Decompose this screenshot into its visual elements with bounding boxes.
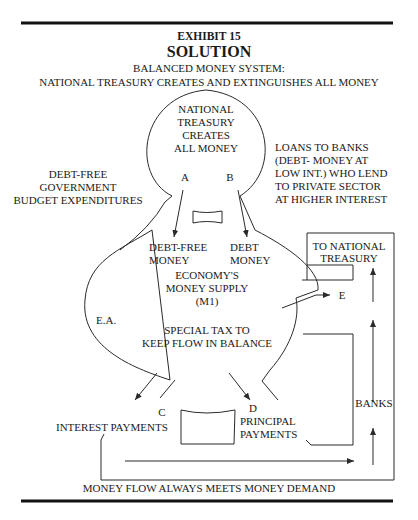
special-tax-1: SPECIAL TAX TO xyxy=(164,324,250,336)
left-note-3: BUDGET EXPENDITURES xyxy=(13,194,142,206)
treasury-line-4: ALL MONEY xyxy=(174,142,238,154)
right-note-1: LOANS TO BANKS xyxy=(275,141,369,153)
interest-payments-label: INTEREST PAYMENTS xyxy=(56,421,168,433)
banks-label: BANKS xyxy=(355,397,392,409)
treasury-line-2: TREASURY xyxy=(177,116,235,128)
special-tax-2: KEEP FLOW IN BALANCE xyxy=(142,337,272,349)
point-c: C xyxy=(158,406,165,418)
right-note-4: TO PRIVATE SECTOR xyxy=(275,180,381,192)
point-d: D xyxy=(249,402,257,414)
to-treasury-2: TREASURY xyxy=(320,252,378,264)
money-flow-diagram: EXHIBIT 15 SOLUTION BALANCED MONEY SYSTE… xyxy=(0,0,418,520)
treasury-line-3: CREATES xyxy=(182,129,230,141)
arrow-a xyxy=(174,190,183,237)
point-a: A xyxy=(181,171,189,183)
principal-channel xyxy=(303,334,353,445)
arrow-c xyxy=(135,373,157,400)
valve-shape xyxy=(193,211,222,223)
right-note-5: AT HIGHER INTEREST xyxy=(275,193,388,205)
arrow-d xyxy=(229,373,250,400)
money-supply-3: (M1) xyxy=(196,295,219,308)
arrow-b xyxy=(238,190,247,237)
to-treasury-1: TO NATIONAL xyxy=(313,240,386,252)
center-box xyxy=(181,410,235,444)
point-e: E xyxy=(339,289,346,301)
left-note-2: GOVERNMENT xyxy=(40,181,117,193)
principal-payments-2: PAYMENTS xyxy=(240,428,297,440)
subtitle-1: BALANCED MONEY SYSTEM: xyxy=(133,62,285,74)
debt-free-money-2: MONEY xyxy=(149,254,189,266)
money-supply-2: MONEY SUPPLY xyxy=(166,282,249,294)
left-note-1: DEBT-FREE xyxy=(49,168,108,180)
treasury-line-1: NATIONAL xyxy=(178,103,234,115)
principal-payments-1: PRINCIPAL xyxy=(240,415,296,427)
debt-free-money-1: DEBT-FREE xyxy=(149,241,208,253)
money-supply-1: ECONOMY'S xyxy=(175,269,239,281)
footer-caption: MONEY FLOW ALWAYS MEETS MONEY DEMAND xyxy=(83,482,335,494)
return-inner-box xyxy=(302,265,353,280)
debt-money-1: DEBT xyxy=(230,241,259,253)
right-note-3: LOW INT.) WHO LEND xyxy=(275,167,387,180)
page-title: SOLUTION xyxy=(167,43,252,60)
exhibit-label: EXHIBIT 15 xyxy=(177,30,241,42)
arrow-e xyxy=(282,295,330,308)
point-ea: E.A. xyxy=(96,314,116,326)
debt-money-2: MONEY xyxy=(230,254,270,266)
subtitle-2: NATIONAL TREASURY CREATES AND EXTINGUISH… xyxy=(39,76,379,88)
return-channel xyxy=(101,233,394,480)
point-b: B xyxy=(226,171,233,183)
right-note-2: (DEBT- MONEY AT xyxy=(275,154,369,167)
